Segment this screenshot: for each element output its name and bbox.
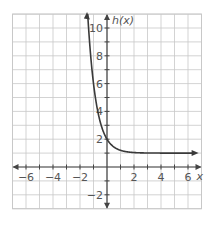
y-tick-label: 6: [96, 78, 103, 91]
x-tick-label: 6: [185, 171, 192, 184]
y-tick-label: 2: [96, 133, 103, 146]
x-tick-label: −4: [45, 171, 61, 184]
x-tick-label: 4: [158, 171, 165, 184]
x-tick-label: −6: [18, 171, 34, 184]
x-tick-label: 2: [131, 171, 138, 184]
function-graph: −6−4−2246−2246810 x h(x): [0, 0, 212, 225]
y-tick-label: −2: [87, 189, 103, 202]
y-axis-label: h(x): [112, 14, 134, 27]
y-tick-label: 8: [96, 50, 103, 63]
x-axis-label: x: [196, 170, 204, 183]
x-tick-label: −2: [72, 171, 88, 184]
y-tick-label: 10: [89, 22, 103, 35]
